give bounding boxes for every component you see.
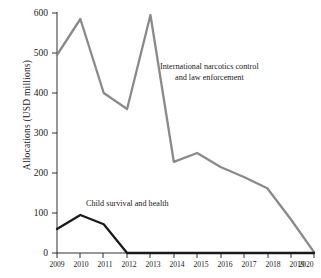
annotation-narcotics: International narcotics control and law … bbox=[160, 62, 259, 83]
line-chart: Allocations (USD millions) 600 500 400 3… bbox=[0, 0, 321, 278]
annotation-narcotics-line1: International narcotics control bbox=[160, 62, 259, 73]
y-axis-ticks bbox=[52, 13, 57, 253]
series-line-narcotics bbox=[57, 15, 314, 252]
axis-lines bbox=[57, 12, 314, 253]
annotation-child-survival: Child survival and health bbox=[86, 199, 169, 210]
annotation-child-line1: Child survival and health bbox=[86, 199, 169, 210]
plot-area bbox=[0, 0, 321, 278]
series-line-child-survival bbox=[57, 215, 314, 253]
annotation-narcotics-line2: and law enforcement bbox=[160, 73, 259, 84]
